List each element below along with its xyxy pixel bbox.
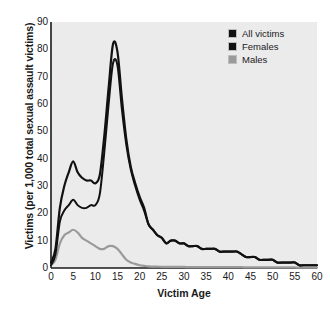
x-tick-label: 60: [305, 272, 329, 282]
legend-swatch-all-victims: [228, 29, 237, 38]
x-tick-label: 5: [61, 272, 85, 282]
x-tick-label: 50: [261, 272, 285, 282]
legend-swatch-females: [228, 42, 237, 51]
x-tick-label: 15: [106, 272, 130, 282]
sexual-assault-victims-by-age-chart: Victims (per 1,000 total sexual assault …: [0, 0, 330, 315]
legend-item-all-victims: All victims: [228, 27, 284, 39]
chart-legend: All victims Females Males: [228, 27, 284, 66]
x-tick-label: 10: [83, 272, 107, 282]
legend-item-females: Females: [228, 40, 284, 52]
legend-label-males: Males: [242, 54, 267, 65]
x-tick-label: 55: [283, 272, 307, 282]
legend-label-females: Females: [242, 41, 278, 52]
legend-label-all-victims: All victims: [242, 28, 284, 39]
x-tick-label: 20: [128, 272, 152, 282]
x-tick-label: 35: [194, 272, 218, 282]
x-tick-label: 40: [216, 272, 240, 282]
x-tick-label: 30: [172, 272, 196, 282]
x-tick-label: 45: [239, 272, 263, 282]
x-tick-label: 0: [39, 272, 63, 282]
x-axis-tick-labels: 051015202530354045505560: [0, 272, 330, 288]
legend-swatch-males: [228, 55, 237, 64]
legend-item-males: Males: [228, 53, 284, 65]
x-tick-label: 25: [150, 272, 174, 282]
x-axis-title: Victim Age: [51, 287, 317, 299]
